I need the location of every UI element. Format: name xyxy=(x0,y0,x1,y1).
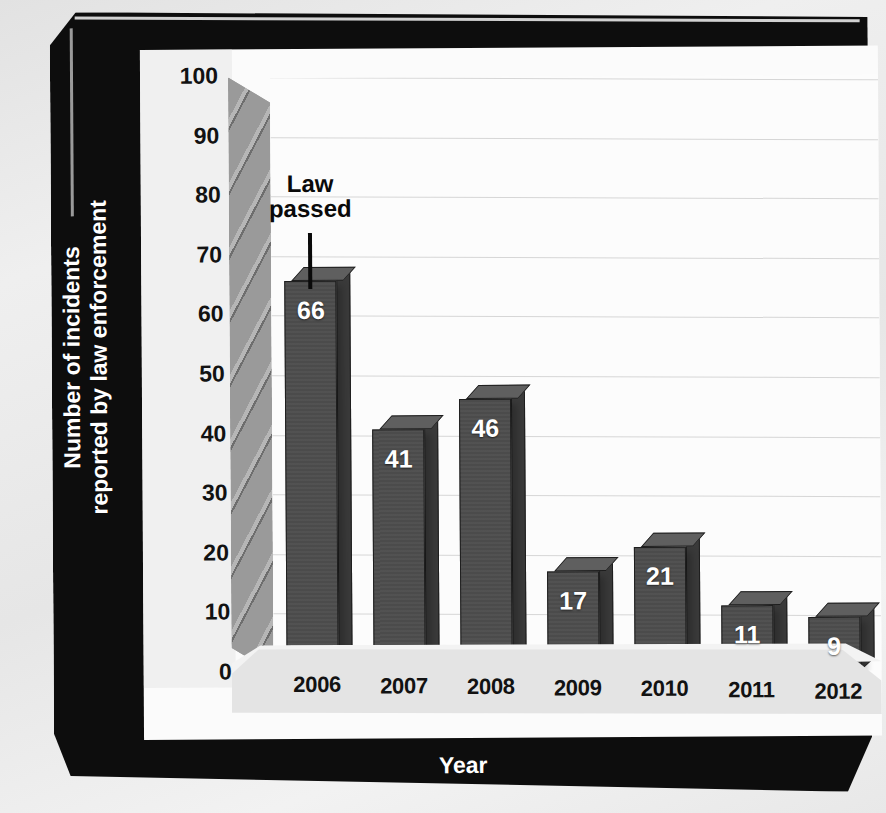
bar-value-label: 46 xyxy=(459,414,511,443)
bar-value-label: 9 xyxy=(808,632,860,661)
y-tick-0: 0 xyxy=(170,658,232,685)
bar-side-face xyxy=(424,416,439,673)
bar-2006: 66 xyxy=(285,280,340,674)
plot-area: 6641461721119 xyxy=(270,74,882,674)
y-tick-60: 60 xyxy=(161,301,223,328)
y-tick-80: 80 xyxy=(159,182,221,209)
axis-wall-hatching xyxy=(228,77,274,673)
gridline-100 xyxy=(270,77,878,80)
annotation-law-passed: Law passed xyxy=(230,170,390,221)
y-axis-3d-wall xyxy=(228,77,274,673)
x-tick-2007: 2007 xyxy=(370,673,438,699)
x-tick-2009: 2009 xyxy=(544,675,612,701)
bar-2008: 46 xyxy=(459,399,513,673)
y-tick-40: 40 xyxy=(164,420,226,447)
bar-value-label: 66 xyxy=(285,295,337,324)
chart-frame: Number of incidents reported by law enfo… xyxy=(50,8,873,797)
x-tick-2010: 2010 xyxy=(630,676,698,702)
x-tick-2011: 2011 xyxy=(717,677,785,703)
annotation-leader-line xyxy=(308,233,312,289)
x-tick-2012: 2012 xyxy=(804,678,872,704)
x-tick-2008: 2008 xyxy=(457,674,525,700)
bar-front-face xyxy=(285,280,340,674)
x-tick-2006: 2006 xyxy=(283,672,351,698)
y-tick-70: 70 xyxy=(160,241,222,268)
bar-value-label: 21 xyxy=(634,561,686,590)
x-axis-title: Year xyxy=(54,749,872,781)
gridline-70 xyxy=(271,256,879,259)
gridlines-group xyxy=(270,74,878,78)
bar-side-face xyxy=(511,386,527,673)
gridline-60 xyxy=(271,316,879,319)
y-tick-90: 90 xyxy=(157,122,219,149)
gridline-30 xyxy=(273,494,881,497)
gridline-50 xyxy=(272,375,880,378)
plot-board: 6641461721119 0102030405060708090100 200… xyxy=(140,45,882,739)
y-tick-30: 30 xyxy=(165,480,227,507)
bar-2007: 41 xyxy=(372,429,426,674)
bar-value-label: 17 xyxy=(547,586,599,615)
y-tick-100: 100 xyxy=(156,62,218,89)
y-tick-10: 10 xyxy=(168,599,230,626)
y-tick-20: 20 xyxy=(167,539,229,566)
y-axis-title: Number of incidents reported by law enfo… xyxy=(57,77,115,637)
y-axis-title-text: Number of incidents reported by law enfo… xyxy=(58,200,113,515)
y-tick-50: 50 xyxy=(163,360,225,387)
bar-value-label: 11 xyxy=(721,621,773,650)
x-axis-tick-labels: 2006200720082009201020112012 xyxy=(274,662,882,706)
gridline-40 xyxy=(272,435,880,438)
bar-value-label: 41 xyxy=(372,444,424,473)
chart-screenshot: Number of incidents reported by law enfo… xyxy=(0,0,886,813)
bar-side-face xyxy=(337,268,353,674)
gridline-90 xyxy=(270,137,878,140)
